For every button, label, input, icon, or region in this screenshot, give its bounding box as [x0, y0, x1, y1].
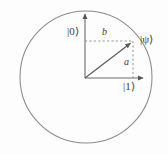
bloch-circle-diagram — [0, 0, 168, 154]
label-ket-psi: |ψ⟩ — [140, 34, 153, 45]
label-amplitude-b: b — [102, 27, 107, 37]
label-ket-zero: |0⟩ — [67, 26, 79, 37]
qubit-state-figure: |0⟩ |1⟩ |ψ⟩ b a — [0, 0, 168, 154]
label-ket-one: |1⟩ — [123, 81, 135, 92]
label-amplitude-a: a — [124, 57, 129, 67]
